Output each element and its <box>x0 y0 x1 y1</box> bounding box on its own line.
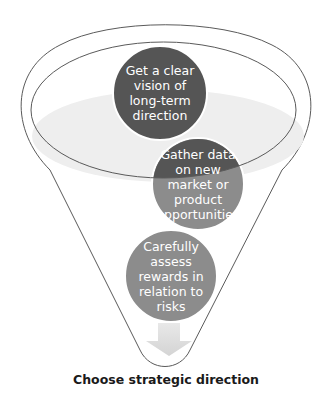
step-1-label: Get a clear vision of long-term directio… <box>113 46 207 140</box>
step-3-label: Carefully assess rewards in relation to … <box>125 230 217 322</box>
caption: Choose strategic direction <box>0 372 332 387</box>
step-2-label: Gather data on new market or product opp… <box>152 138 244 230</box>
